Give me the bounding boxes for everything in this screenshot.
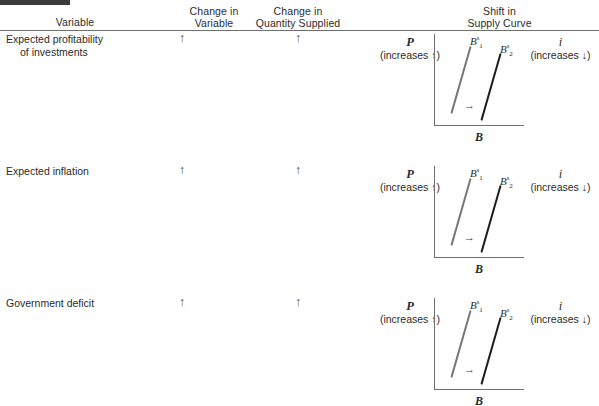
column-header-change-in-quantity-supplied-line2: Quantity Supplied	[232, 18, 364, 30]
supply-curve-shifted	[480, 53, 502, 121]
supply-curve-diagram: P (increases ↑) i (increases ↓) Bs1 Bs2 …	[370, 295, 599, 405]
bond-quantity-axis-label: B	[434, 131, 524, 144]
curve1-superscript: s	[477, 34, 480, 41]
curve2-superscript: s	[507, 42, 510, 49]
interest-rate-label: i (increases ↓)	[522, 167, 599, 194]
curve2-superscript: s	[507, 174, 510, 181]
horizontal-axis-line	[434, 389, 524, 390]
curve2-subscript: 2	[509, 50, 513, 58]
column-header-change-in-quantity-supplied-line1: Change in	[274, 5, 323, 17]
row-variable-label: Government deficit	[6, 297, 156, 310]
row-variable-label-line1: Expected profitability	[6, 33, 103, 45]
supply-curve-shifted-label: Bs2	[500, 40, 513, 60]
column-header-change-in-quantity-supplied: Change in Quantity Supplied	[232, 6, 364, 29]
table-row: Government deficit ↑ ↑ P (increases ↑) i…	[0, 295, 599, 406]
horizontal-axis-line	[434, 257, 524, 258]
column-header-shift-in-supply-curve-line1: Shift in	[483, 5, 516, 17]
curve2-superscript: s	[507, 306, 510, 313]
interest-rate-note: (increases ↓)	[530, 49, 590, 61]
price-axis-note: (increases ↑)	[380, 181, 440, 193]
change-in-variable-arrow: ↑	[160, 32, 204, 45]
vertical-axis-line	[434, 34, 435, 126]
curve1-base: B	[470, 167, 477, 179]
change-in-variable-arrow: ↑	[160, 164, 204, 177]
curve2-subscript: 2	[509, 182, 513, 190]
bond-quantity-axis-label: B	[434, 395, 524, 406]
curve1-base: B	[470, 35, 477, 47]
curve2-base: B	[500, 307, 507, 319]
supply-curve-shifted-label: Bs2	[500, 172, 513, 192]
curve1-subscript: 1	[479, 306, 483, 314]
column-header-variable-line1: Variable	[56, 16, 95, 28]
interest-rate-label: i (increases ↓)	[522, 299, 599, 326]
row-variable-label: Expected inflation	[6, 165, 156, 178]
curve1-superscript: s	[477, 298, 480, 305]
interest-rate-note: (increases ↓)	[530, 181, 590, 193]
shift-direction-arrow: →	[464, 364, 475, 375]
vertical-axis-line	[434, 166, 435, 258]
change-in-quantity-supplied-arrow: ↑	[276, 164, 320, 177]
supply-curve-initial-label: Bs1	[470, 296, 483, 316]
price-axis-note: (increases ↑)	[380, 313, 440, 325]
supply-curve-shift-table: Variable Change in Variable Change in Qu…	[0, 0, 599, 406]
curve2-subscript: 2	[509, 314, 513, 322]
supply-curve-diagram: P (increases ↑) i (increases ↓) Bs1 Bs2 …	[370, 163, 599, 273]
plot-area: Bs1 Bs2 → B	[434, 298, 524, 390]
table-row: Expected inflation ↑ ↑ P (increases ↑) i…	[0, 163, 599, 295]
column-header-shift-in-supply-curve-line2: Supply Curve	[400, 18, 599, 30]
row-variable-label: Expected profitability of investments	[6, 33, 156, 59]
curve1-subscript: 1	[479, 174, 483, 182]
vertical-axis-line	[434, 298, 435, 390]
shift-direction-arrow: →	[464, 100, 475, 111]
table-header-row: Variable Change in Variable Change in Qu…	[0, 6, 599, 30]
supply-curve-initial-label: Bs1	[470, 164, 483, 184]
supply-curve-shifted-label: Bs2	[500, 304, 513, 324]
column-header-variable: Variable	[0, 17, 150, 29]
interest-rate-symbol: i	[522, 167, 599, 181]
price-axis-note: (increases ↑)	[380, 49, 440, 61]
change-in-quantity-supplied-arrow: ↑	[276, 32, 320, 45]
supply-curve-initial-label: Bs1	[470, 32, 483, 52]
supply-curve-diagram: P (increases ↑) i (increases ↓) Bs1 Bs2 …	[370, 31, 599, 141]
horizontal-axis-line	[434, 125, 524, 126]
curve1-subscript: 1	[479, 42, 483, 50]
change-in-variable-arrow: ↑	[160, 296, 204, 309]
row-variable-label-line2: of investments	[6, 46, 156, 59]
plot-area: Bs1 Bs2 → B	[434, 34, 524, 126]
supply-curve-shifted	[480, 317, 502, 385]
curve1-base: B	[470, 299, 477, 311]
table-row: Expected profitability of investments ↑ …	[0, 31, 599, 163]
interest-rate-symbol: i	[522, 35, 599, 49]
row-variable-label-line1: Government deficit	[6, 297, 94, 309]
change-in-quantity-supplied-arrow: ↑	[276, 296, 320, 309]
curve1-superscript: s	[477, 166, 480, 173]
interest-rate-symbol: i	[522, 299, 599, 313]
interest-rate-label: i (increases ↓)	[522, 35, 599, 62]
supply-curve-shifted	[480, 185, 502, 253]
bond-quantity-axis-label: B	[434, 263, 524, 276]
interest-rate-note: (increases ↓)	[530, 313, 590, 325]
column-header-shift-in-supply-curve: Shift in Supply Curve	[400, 6, 599, 29]
row-variable-label-line1: Expected inflation	[6, 165, 89, 177]
plot-area: Bs1 Bs2 → B	[434, 166, 524, 258]
curve2-base: B	[500, 175, 507, 187]
shift-direction-arrow: →	[464, 232, 475, 243]
curve2-base: B	[500, 43, 507, 55]
